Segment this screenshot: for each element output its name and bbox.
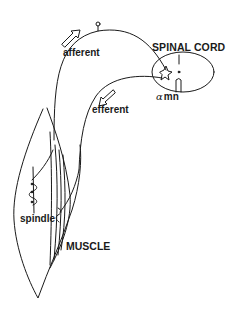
spinal-cord-outline [152,52,214,92]
muscle-fiber [54,145,57,260]
efferent-label: efferent [92,105,129,115]
dorsal-root-ganglion-icon [96,22,100,26]
afferent-arrow-icon [62,30,80,47]
spindle-receptor-body [33,167,34,213]
central-canal-dot [178,71,180,73]
alpha-symbol: α [156,91,163,102]
efferent-nerve [79,76,162,170]
afferent-label: afferent [63,48,100,58]
alpha-motor-neuron-label: αmn [156,92,179,102]
reflex-arc-diagram: SPINAL CORD αmn afferent efferent spindl… [0,0,243,315]
ventral-fissure [176,79,181,93]
spindle-label: spindle [20,214,55,224]
spindle-afferent-branch [32,150,53,180]
muscle-fiber [50,132,52,265]
motor-neuron-text: mn [164,91,179,102]
muscle-label: MUSCLE [66,241,110,252]
spinal-cord-label: SPINAL CORD [152,42,225,53]
